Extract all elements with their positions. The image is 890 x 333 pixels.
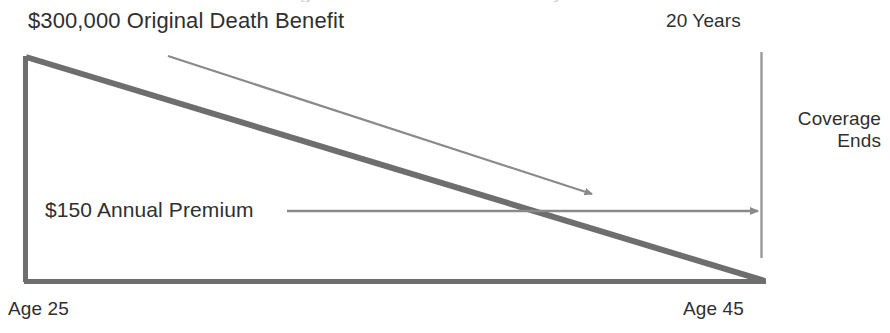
age-end-label: Age 45: [683, 298, 744, 320]
death-benefit-label: $300,000 Original Death Benefit: [28, 8, 344, 34]
age-start-label: Age 25: [8, 298, 69, 320]
coverage-ends-label: CoverageEnds: [781, 108, 881, 153]
diagram-canvas: Decreasing Term Life Insurance Policy $3…: [0, 0, 890, 333]
coverage-ends-line-1: Coverage: [798, 108, 881, 129]
diagram-graphics: [0, 0, 890, 333]
death-benefit-decline-line: [26, 57, 765, 281]
annual-premium-label: $150 Annual Premium: [45, 198, 254, 223]
death-benefit-callout-arrow: [168, 56, 592, 194]
coverage-ends-line-2: Ends: [837, 130, 881, 151]
term-years-label: 20 Years: [666, 10, 741, 32]
